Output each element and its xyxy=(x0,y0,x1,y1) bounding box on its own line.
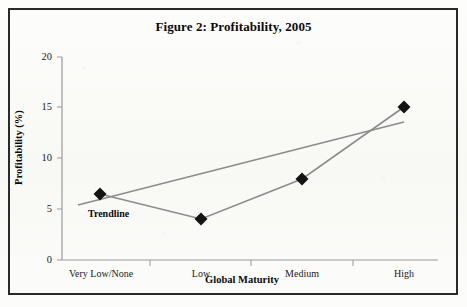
data-point-marker xyxy=(195,213,208,226)
figure-container: Figure 2: Profitability, 2005 20 15 10 5… xyxy=(0,0,467,307)
y-tick-label-5: 5 xyxy=(26,203,52,214)
y-axis-title: Profitability (%) xyxy=(13,93,24,203)
data-series-line xyxy=(100,107,404,219)
y-tick-label-20: 20 xyxy=(26,51,52,62)
y-tick-label-15: 15 xyxy=(26,101,52,112)
trendline-annotation-label: Trendline xyxy=(88,208,129,219)
data-point-marker xyxy=(296,173,309,186)
y-tick-label-10: 10 xyxy=(26,152,52,163)
y-tick-label-0: 0 xyxy=(26,254,52,265)
trendline-path xyxy=(78,122,404,205)
chart-plot-area xyxy=(0,0,467,307)
data-point-marker xyxy=(398,101,411,114)
x-axis-title: Global Maturity xyxy=(62,274,422,285)
